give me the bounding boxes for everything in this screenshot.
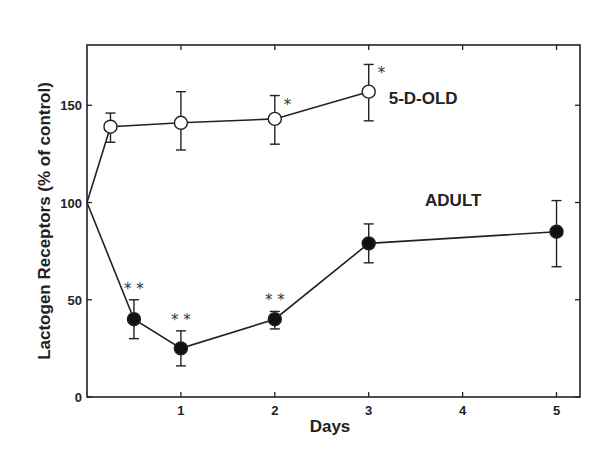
data-point xyxy=(127,313,140,326)
plot-frame xyxy=(87,45,580,397)
x-tick-label: 2 xyxy=(271,403,278,418)
x-tick-label: 1 xyxy=(177,403,184,418)
y-axis-label: Lactogen Receptors (% of control) xyxy=(35,82,54,360)
data-point xyxy=(268,313,281,326)
series-adult: * ** ** *ADULT xyxy=(87,191,563,366)
chart: 12345050100150 **5-D-OLD* ** ** *ADULT D… xyxy=(0,0,612,451)
data-point xyxy=(104,120,117,133)
data-point xyxy=(174,116,187,129)
significance-marker: * xyxy=(284,96,292,114)
data-point xyxy=(550,225,563,238)
axis-ticks: 12345050100150 xyxy=(60,45,580,418)
significance-marker: * * xyxy=(171,311,191,329)
y-tick-label: 50 xyxy=(68,293,82,308)
plot-border xyxy=(87,45,580,397)
x-tick-label: 4 xyxy=(459,403,467,418)
x-tick-label: 3 xyxy=(365,403,372,418)
series-line xyxy=(87,203,557,349)
significance-marker: * * xyxy=(265,291,285,309)
series-line xyxy=(87,92,369,203)
y-tick-label: 0 xyxy=(75,390,82,405)
series-label: ADULT xyxy=(425,191,482,210)
series-group: **5-D-OLD* ** ** *ADULT xyxy=(87,64,563,365)
data-point xyxy=(174,342,187,355)
x-axis-label: Days xyxy=(310,417,351,436)
x-tick-label: 5 xyxy=(553,403,560,418)
significance-marker: * * xyxy=(124,280,144,298)
significance-marker: * xyxy=(378,64,386,82)
series-5-d-old: **5-D-OLD xyxy=(87,64,458,202)
y-tick-label: 150 xyxy=(60,98,82,113)
data-point xyxy=(268,112,281,125)
data-point xyxy=(362,85,375,98)
y-tick-label: 100 xyxy=(60,196,82,211)
series-label: 5-D-OLD xyxy=(389,89,458,108)
data-point xyxy=(362,237,375,250)
